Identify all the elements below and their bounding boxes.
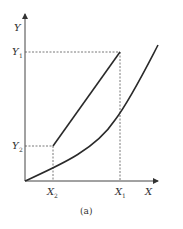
x-axis-label: X	[144, 186, 153, 197]
diagram-canvas: Y X Y 1 Y 2 X 2 X 1 (a)	[0, 0, 183, 229]
lower-curve	[25, 45, 158, 181]
x2-subscript: 2	[54, 192, 58, 199]
figure-caption: (a)	[80, 206, 92, 216]
y1-subscript: 1	[19, 52, 23, 59]
y-axis-label: Y	[14, 22, 22, 33]
y2-subscript: 2	[19, 146, 23, 153]
upper-straight-line	[53, 52, 120, 146]
x1-subscript: 1	[122, 192, 126, 199]
